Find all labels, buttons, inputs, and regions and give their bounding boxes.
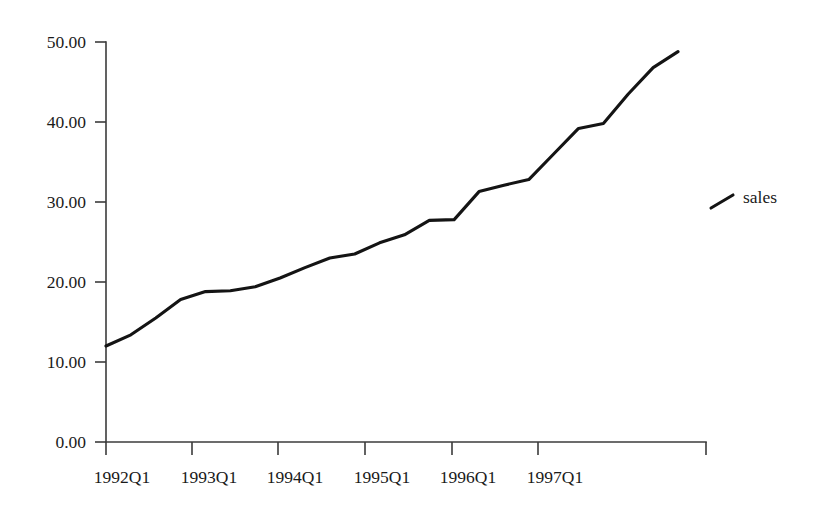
y-axis-label-50: 50.00	[47, 32, 87, 52]
x-axis-label-1994q1: 1994Q1	[267, 467, 323, 487]
x-axis-label-1996q1: 1996Q1	[440, 467, 496, 487]
legend-swatch-sales-icon	[711, 195, 733, 208]
x-axis-label-1997q1: 1997Q1	[527, 467, 583, 487]
y-axis-label-40: 40.00	[47, 112, 87, 132]
y-axis-label-10: 10.00	[47, 352, 87, 372]
y-axis-labels: 50.00 40.00 30.00 20.00 10.00 0.00	[47, 32, 87, 452]
x-axis-label-1993q1: 1993Q1	[181, 467, 237, 487]
x-axis-ticks	[106, 442, 706, 455]
chart-container: 50.00 40.00 30.00 20.00 10.00 0.00 1992Q…	[0, 0, 818, 510]
y-axis-label-30: 30.00	[47, 192, 87, 212]
series-line-sales	[106, 52, 678, 346]
x-axis-label-1992q1: 1992Q1	[94, 467, 150, 487]
chart-legend: sales	[711, 187, 777, 208]
legend-label-sales: sales	[743, 187, 777, 207]
x-axis-labels: 1992Q1 1993Q1 1994Q1 1995Q1 1996Q1 1997Q…	[94, 467, 583, 487]
sales-line-chart: 50.00 40.00 30.00 20.00 10.00 0.00 1992Q…	[0, 0, 818, 510]
y-axis-label-20: 20.00	[47, 272, 87, 292]
x-axis-label-1995q1: 1995Q1	[354, 467, 410, 487]
y-axis-label-0: 0.00	[55, 432, 86, 452]
y-axis-ticks	[95, 42, 106, 442]
